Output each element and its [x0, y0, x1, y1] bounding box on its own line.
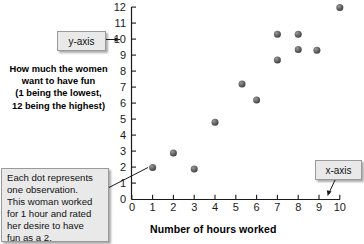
axis-spines — [132, 7, 341, 200]
data-point — [295, 31, 302, 38]
data-point — [170, 150, 177, 157]
data-point — [253, 97, 260, 104]
x-tick-label-6: 6 — [250, 201, 264, 213]
leader-line-x-axis — [327, 178, 336, 196]
y-tick-label-10: 10 — [110, 33, 126, 45]
y-tick-label-4: 4 — [110, 129, 126, 141]
callout-dot-explanation: Each dot represents one observation. Thi… — [1, 168, 109, 242]
x-tick-label-5: 5 — [229, 201, 243, 213]
y-axis-ticks — [132, 7, 137, 183]
x-tick-label-9: 9 — [312, 201, 326, 213]
callout-x-axis: x-axis — [315, 160, 362, 180]
data-point — [191, 166, 198, 173]
data-points — [149, 4, 343, 173]
callout-dot-line-2: one observation. — [7, 184, 104, 196]
x-axis-ticks — [132, 195, 340, 200]
data-point — [274, 56, 281, 63]
callout-x-axis-label: x-axis — [325, 165, 351, 176]
data-point — [239, 81, 246, 88]
callout-dot-line-4: for 1 hour and rated — [7, 208, 104, 220]
x-tick-label-7: 7 — [270, 201, 284, 213]
x-tick-label-0: 0 — [125, 201, 139, 213]
x-axis-title: Number of hours worked — [150, 223, 276, 235]
data-point — [274, 31, 281, 38]
x-tick-label-4: 4 — [208, 201, 222, 213]
y-tick-label-0: 0 — [110, 193, 126, 205]
y-tick-label-5: 5 — [110, 113, 126, 125]
y-axis-description: How much the women want to have fun (1 b… — [2, 63, 115, 112]
y-axis-description-line-4: 12 being the highest) — [2, 100, 115, 112]
y-tick-label-12: 12 — [110, 1, 126, 13]
data-point — [149, 164, 156, 171]
x-tick-label-8: 8 — [291, 201, 305, 213]
data-point — [336, 4, 343, 11]
callout-dot-line-3: This woman worked — [7, 196, 104, 208]
y-tick-label-11: 11 — [110, 17, 126, 29]
x-tick-label-3: 3 — [187, 201, 201, 213]
callout-dot-line-6: fun as a 2. — [7, 232, 104, 244]
y-axis-description-line-1: How much the women — [2, 63, 115, 75]
x-tick-label-10: 10 — [333, 201, 347, 213]
callout-dot-line-5: her desire to have — [7, 220, 104, 232]
x-tick-label-2: 2 — [166, 201, 180, 213]
callout-dot-line-1: Each dot represents — [7, 172, 104, 184]
y-tick-label-3: 3 — [110, 145, 126, 157]
data-point — [212, 119, 219, 126]
callout-y-axis: y-axis — [57, 31, 106, 51]
y-tick-label-9: 9 — [110, 49, 126, 61]
callout-y-axis-label: y-axis — [68, 36, 94, 47]
y-tick-label-1: 1 — [110, 177, 126, 189]
y-axis-description-line-3: (1 being the lowest, — [2, 87, 115, 99]
data-point — [295, 46, 302, 53]
scatter-plot-figure: 12 11 10 9 8 7 6 5 4 3 2 1 0 0 1 2 3 4 5… — [0, 0, 364, 244]
x-tick-label-1: 1 — [146, 201, 160, 213]
data-point — [313, 47, 320, 54]
y-tick-label-2: 2 — [110, 161, 126, 173]
y-axis-description-line-2: want to have fun — [2, 75, 115, 87]
